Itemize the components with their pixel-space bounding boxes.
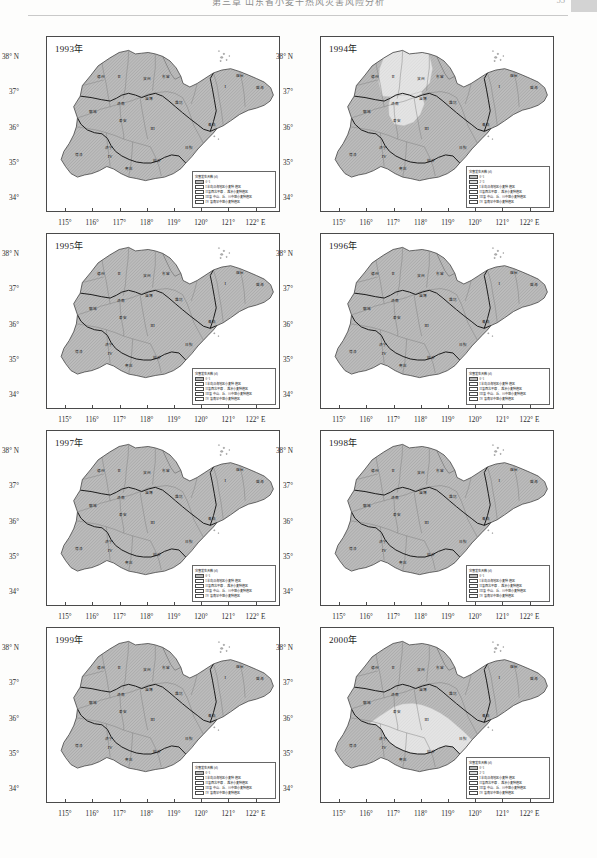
svg-text:菏泽: 菏泽 [75,349,83,354]
legend-class-row: 0~1 [195,771,273,775]
x-tick-label: 120° [468,810,482,818]
y-axis: 38° N37°36°35°34° [270,430,294,606]
legend-class-label: 0~1 [206,771,211,775]
x-tick-label: 119° [167,810,180,818]
year-label: 1999年 [55,633,84,646]
svg-text:青岛: 青岛 [208,122,216,127]
x-tick-label: 115° [332,416,345,424]
legend-zone-label: IV 鲁南早中熟小麦种植区 [206,397,240,401]
legend-swatch [469,200,478,204]
plot-frame: 德州聊城滨州东营烟台威海淄博潍坊济南泰安青岛日照济宁菏泽枣庄临沂IIIIIIIV… [320,233,554,409]
svg-text:临沂: 临沂 [153,355,161,360]
plot-frame: 德州聊城滨州东营烟台威海淄博潍坊济南泰安青岛日照济宁菏泽枣庄临沂IIIIIIIV… [46,36,280,212]
panel-1993: 德州聊城滨州东营烟台威海淄博潍坊济南泰安青岛日照济宁菏泽枣庄临沂IIIIIIIV… [22,36,298,244]
svg-text:II: II [392,468,395,473]
legend-zone-row: IV 鲁南早中熟小麦种植区 [195,200,273,204]
legend-swatch [195,584,204,588]
x-tick-label: 115° [332,810,345,818]
x-tick-label: 118° [140,810,153,818]
svg-text:枣庄: 枣庄 [125,363,133,368]
legend-zone-row: IV 鲁南早中熟小麦种植区 [469,200,547,204]
x-tick-mark [394,405,395,409]
legend-zone-label: II 鲁西北平原、滩涂小麦种植区 [206,190,248,194]
legend-zone-label: IV 鲁南早中熟小麦种植区 [480,594,514,598]
svg-text:日照: 日照 [459,342,467,347]
legend-swatch [469,776,478,780]
x-axis: 115°116°117°118°119°120°121°122° E [46,606,280,628]
legend-zone-row: III 鲁中山、丘、川中熟小麦种植区 [195,195,273,199]
y-tick-label: 36° [283,124,293,132]
y-tick-label: 35° [9,553,19,561]
x-tick-mark [502,208,503,212]
legend-zone-row: IV 鲁南早中熟小麦种植区 [195,397,273,401]
x-tick-label: 121° [495,416,509,424]
legend-class-row: 0~1 [469,175,547,179]
svg-text:济南: 济南 [391,298,399,303]
svg-text:威海: 威海 [530,85,538,90]
x-tick-label: 120° [468,416,482,424]
x-tick-label: 122° E [520,613,540,621]
svg-text:东营: 东营 [162,468,170,473]
svg-text:济南: 济南 [117,101,125,106]
map-legend: 灾害发生天数 (d)0~1I 半岛沿海地区小麦种植区II 鲁西北平原、滩涂小麦种… [466,565,550,602]
x-tick-label: 121° [221,416,235,424]
svg-text:东营: 东营 [436,468,444,473]
legend-class-row: 2~3 [469,180,547,184]
legend-zone-row: IV 鲁南早中熟小麦种植区 [469,397,547,401]
svg-text:德州: 德州 [371,665,379,670]
legend-zone-row: IV 鲁南早中熟小麦种植区 [195,791,273,795]
x-tick-mark [366,405,367,409]
x-tick-label: 120° [194,219,208,227]
svg-text:威海: 威海 [256,85,264,90]
legend-swatch [469,195,478,199]
y-tick-label: 35° [9,750,19,758]
x-tick-mark [530,602,531,606]
svg-text:青岛: 青岛 [482,516,490,521]
svg-text:淄博: 淄博 [419,490,427,495]
legend-zone-label: III 鲁中山、丘、川中熟小麦种植区 [206,195,252,199]
plot-frame: 德州聊城滨州东营烟台威海淄博潍坊济南泰安青岛日照济宁菏泽枣庄临沂IIIIIIIV… [320,627,554,803]
svg-text:潍坊: 潍坊 [449,297,457,302]
x-tick-mark [475,405,476,409]
svg-text:临沂: 临沂 [427,158,435,163]
svg-text:枣庄: 枣庄 [399,560,407,565]
svg-text:烟台: 烟台 [510,73,518,78]
svg-text:烟台: 烟台 [236,467,244,472]
legend-zone-row: III 鲁中山、丘、川中熟小麦种植区 [469,195,547,199]
svg-text:泰安: 泰安 [119,118,127,123]
svg-text:威海: 威海 [530,282,538,287]
svg-text:烟台: 烟台 [510,467,518,472]
svg-text:日照: 日照 [185,736,193,741]
legend-swatch [195,781,204,785]
x-tick-mark [421,208,422,212]
svg-text:淄博: 淄博 [145,293,153,298]
svg-text:菏泽: 菏泽 [75,743,83,748]
svg-text:III: III [424,126,429,131]
legend-zone-label: IV 鲁南早中熟小麦种植区 [206,791,240,795]
legend-zone-row: II 鲁西北平原、滩涂小麦种植区 [469,190,547,194]
year-label: 1994年 [329,42,358,55]
y-tick-label: 34° [9,391,19,399]
x-tick-mark [448,405,449,409]
svg-text:滨州: 滨州 [143,76,151,81]
legend-swatch [195,594,204,598]
y-axis: 38° N37°36°35°34° [270,233,294,409]
legend-class-label: 0~1 [480,766,485,770]
svg-text:潍坊: 潍坊 [175,297,183,302]
legend-zone-row: II 鲁西北平原、滩涂小麦种植区 [195,387,273,391]
svg-text:德州: 德州 [371,271,379,276]
x-tick-mark [502,602,503,606]
svg-text:滨州: 滨州 [143,667,151,672]
y-tick-label: 37° [283,482,293,490]
svg-text:菏泽: 菏泽 [349,546,357,551]
x-tick-label: 118° [414,416,427,424]
x-tick-label: 118° [414,810,427,818]
x-tick-mark [366,799,367,803]
y-tick-label: 36° [283,715,293,723]
year-label: 1997年 [55,436,84,449]
x-tick-mark [228,602,229,606]
x-tick-mark [174,208,175,212]
x-tick-label: 115° [332,613,345,621]
legend-swatch [469,766,478,770]
x-tick-label: 117° [387,810,400,818]
